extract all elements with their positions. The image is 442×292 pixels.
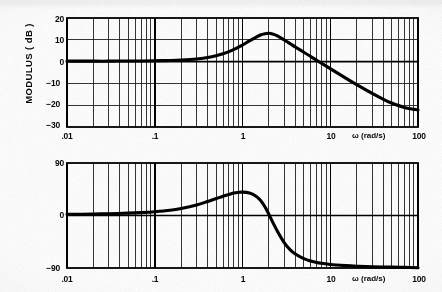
bode-plot-figure: MODULUS ( dB ) 20 10 0 −10 −20 −30 .01 .…: [0, 0, 442, 292]
modulus-grid: [67, 18, 418, 127]
phase-plot-area: [0, 146, 442, 292]
modulus-panel: MODULUS ( dB ) 20 10 0 −10 −20 −30 .01 .…: [0, 0, 442, 146]
modulus-plot-area: [0, 0, 442, 146]
phase-panel: PHASE (degree) 90 0 −90 .01 .1 1 10 100 …: [0, 146, 442, 292]
